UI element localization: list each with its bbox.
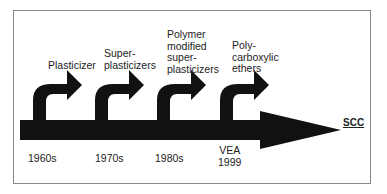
year-label-1980s: 1980s	[155, 153, 184, 165]
year-label-1960s: 1960s	[28, 153, 57, 165]
stage-label-plasticizer: Plasticizer	[48, 60, 96, 72]
year-label-1970s: 1970s	[95, 153, 124, 165]
year-label-vea-1999: VEA 1999	[218, 145, 241, 168]
curved-arrow-icon-3	[157, 70, 206, 123]
stage-label-superplasticizers: Super- plasticizers	[104, 48, 156, 71]
endpoint-label-scc: SCC	[343, 117, 364, 128]
curved-arrow-icon-2	[95, 70, 144, 123]
stage-label-polycarboxylic-ethers: Poly- carboxylic ethers	[232, 40, 279, 75]
curved-arrow-icon-1	[33, 70, 82, 123]
main-timeline-arrow	[20, 111, 341, 149]
stage-label-polymer-modified: Polymer modified super- plasticizers	[167, 29, 219, 75]
